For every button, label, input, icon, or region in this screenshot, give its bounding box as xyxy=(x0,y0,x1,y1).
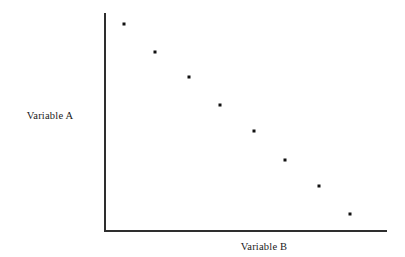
data-point xyxy=(252,130,255,133)
data-point xyxy=(318,185,321,188)
data-point xyxy=(284,158,287,161)
scatter-plot-figure: Variable A Variable B xyxy=(0,0,405,257)
data-point xyxy=(349,213,352,216)
y-axis-label: Variable A xyxy=(0,110,100,121)
plot-area xyxy=(104,13,387,232)
data-point xyxy=(187,75,190,78)
data-point xyxy=(219,103,222,106)
y-axis-line xyxy=(104,13,106,232)
data-point xyxy=(153,51,156,54)
data-point xyxy=(122,22,125,25)
x-axis-label: Variable B xyxy=(164,241,364,252)
x-axis-line xyxy=(104,230,387,232)
